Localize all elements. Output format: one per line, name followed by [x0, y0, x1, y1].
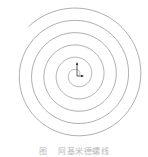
- spiral-diagram: [0, 0, 148, 140]
- y-axis-arrowhead: [76, 62, 78, 65]
- spiral-curve: [19, 8, 141, 136]
- coordinate-axis-icon: [76, 62, 84, 77]
- figure-label: 图: [39, 147, 48, 156]
- figure-title: 阿基米德螺线: [58, 147, 109, 156]
- figure-caption: 图 阿基米德螺线: [0, 145, 148, 156]
- x-axis-arrowhead: [81, 75, 84, 77]
